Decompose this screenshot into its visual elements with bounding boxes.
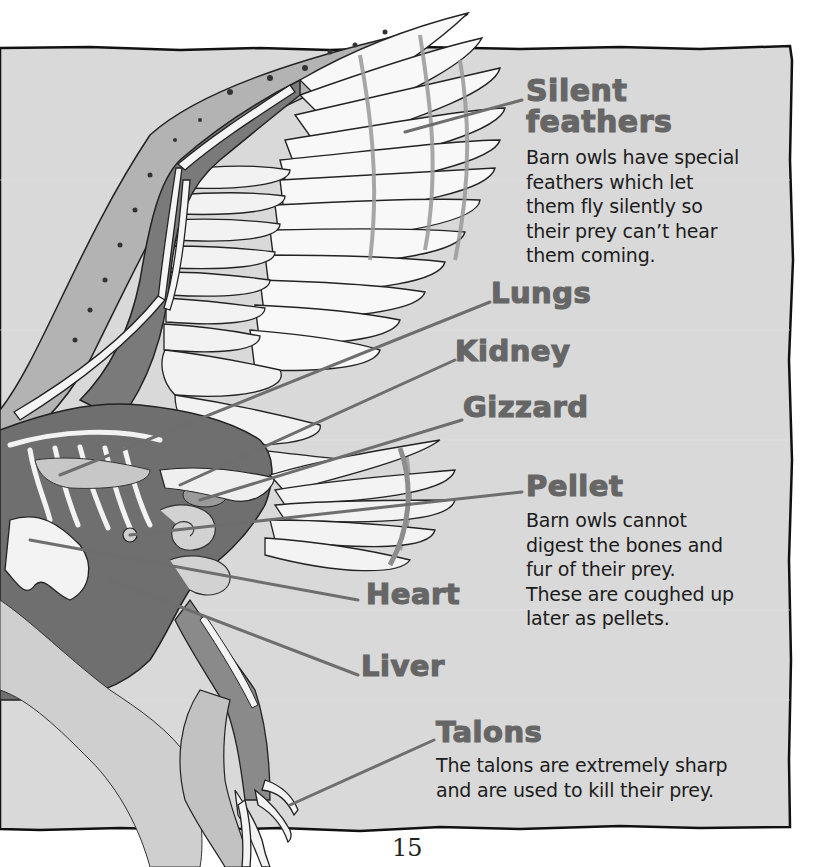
desc-line: Barn owls cannot — [526, 508, 734, 533]
desc-pellet: Barn owls cannot digest the bones and fu… — [526, 508, 734, 631]
label-silent-feathers-line1: Silent — [526, 76, 627, 106]
desc-line: them fly silently so — [526, 194, 739, 219]
desc-line: Barn owls have special — [526, 145, 739, 170]
label-pellet: Pellet — [526, 472, 623, 501]
desc-line: The talons are extremely sharp — [436, 753, 727, 778]
desc-line: them coming. — [526, 243, 739, 268]
desc-line: feathers which let — [526, 170, 739, 195]
desc-silent-feathers: Barn owls have special feathers which le… — [526, 145, 739, 268]
label-lungs: Lungs — [491, 279, 591, 308]
desc-line: fur of their prey. — [526, 557, 734, 582]
label-heart: Heart — [366, 580, 460, 609]
desc-line: later as pellets. — [526, 606, 734, 631]
desc-line: their prey can’t hear — [526, 219, 739, 244]
label-gizzard: Gizzard — [463, 393, 589, 422]
label-kidney: Kidney — [455, 337, 570, 366]
desc-line: digest the bones and — [526, 533, 734, 558]
label-silent-feathers-line2: feathers — [526, 107, 672, 137]
owl-anatomy-illustration — [0, 0, 824, 867]
book-page: Silent feathers Barn owls have special f… — [0, 0, 824, 867]
desc-talons: The talons are extremely sharp and are u… — [436, 753, 727, 802]
label-talons: Talons — [436, 718, 542, 747]
desc-line: These are coughed up — [526, 582, 734, 607]
desc-line: and are used to kill their prey. — [436, 778, 727, 803]
page-number: 15 — [392, 834, 423, 862]
label-liver: Liver — [361, 652, 445, 681]
